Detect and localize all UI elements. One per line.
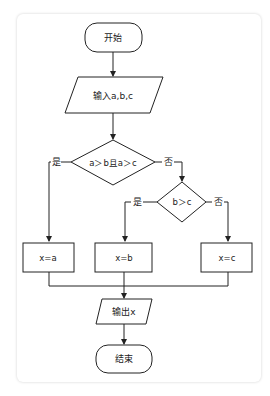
input-label: 输入a,b,c [93,92,133,101]
end-label: 结束 [115,355,133,364]
assign-b-label: x=b [115,254,133,263]
assign-c-label: x=c [219,254,236,263]
condition2-label: b＞c [172,198,191,207]
condition2-no-label: 否 [214,198,223,207]
condition2-yes-label: 是 [133,198,142,207]
assign-a-label: x=a [39,254,56,263]
output-label: 输出x [112,308,135,317]
condition1-no-label: 否 [164,158,173,167]
condition1-label: a＞b且a＞c [89,159,137,168]
condition1-yes-label: 是 [52,158,61,167]
start-label: 开始 [104,34,122,43]
